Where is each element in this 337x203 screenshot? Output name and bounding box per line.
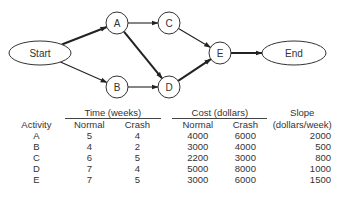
- time-normal-cell: 5: [65, 130, 114, 141]
- time-normal-cell: 7: [65, 163, 114, 174]
- slope-cell: 1000: [267, 163, 337, 174]
- network-nodes: StartABCDEEnd: [9, 12, 326, 98]
- activity-cell: A: [8, 130, 65, 141]
- cost-group-header: Cost (dollars): [172, 107, 267, 119]
- cost-crash-header: Crash: [223, 119, 267, 131]
- cost-crash-cell: 6000: [223, 174, 267, 185]
- time-crash-cell: 2: [114, 141, 161, 152]
- edge-start-to-A: [62, 27, 107, 44]
- edge-C-to-E: [178, 29, 210, 48]
- cost-crash-cell: 8000: [223, 163, 267, 174]
- slope-cell: 2000: [267, 130, 337, 141]
- node-E: E: [209, 42, 231, 64]
- node-label: C: [165, 18, 172, 29]
- cost-crash-cell: 6000: [223, 130, 267, 141]
- network-edges: [60, 23, 262, 87]
- node-A: A: [106, 12, 128, 34]
- activity-header: Activity: [8, 119, 65, 131]
- time-crash-cell: 4: [114, 130, 161, 141]
- project-network-diagram: StartABCDEEnd: [0, 0, 337, 105]
- time-crash-cell: 5: [114, 174, 161, 185]
- slope-cell: 800: [267, 152, 337, 163]
- cost-normal-cell: 3000: [172, 174, 223, 185]
- node-C: C: [158, 12, 180, 34]
- node-label: E: [217, 48, 224, 59]
- time-group-header: Time (weeks): [65, 107, 161, 119]
- activity-cell: C: [8, 152, 65, 163]
- cost-normal-cell: 3000: [172, 141, 223, 152]
- cost-crash-cell: 3000: [223, 152, 267, 163]
- slope-cell: 500: [267, 141, 337, 152]
- node-label: End: [285, 48, 303, 59]
- activity-table: Time (weeks) Cost (dollars) Slope Activi…: [8, 107, 337, 185]
- time-crash-cell: 4: [114, 163, 161, 174]
- time-crash-cell: 5: [114, 152, 161, 163]
- slope-cell: 1500: [267, 174, 337, 185]
- node-start: Start: [9, 41, 71, 65]
- slope-header: Slope: [267, 107, 337, 119]
- cost-normal-cell: 5000: [172, 163, 223, 174]
- node-label: B: [114, 82, 121, 93]
- node-label: Start: [29, 48, 50, 59]
- time-normal-cell: 6: [65, 152, 114, 163]
- cost-normal-header: Normal: [172, 119, 223, 131]
- activity-cell: D: [8, 163, 65, 174]
- node-label: A: [114, 18, 121, 29]
- edge-D-to-E: [178, 59, 211, 81]
- table-row: E75300060001500: [8, 174, 337, 185]
- time-crash-header: Crash: [114, 119, 161, 131]
- time-normal-cell: 4: [65, 141, 114, 152]
- time-normal-header: Normal: [65, 119, 114, 131]
- cost-normal-cell: 2200: [172, 152, 223, 163]
- cost-crash-cell: 4000: [223, 141, 267, 152]
- node-B: B: [106, 76, 128, 98]
- time-normal-cell: 7: [65, 174, 114, 185]
- node-label: D: [165, 82, 172, 93]
- node-D: D: [158, 76, 180, 98]
- slope-unit-header: (dollars/week): [267, 119, 337, 131]
- table-row: B4230004000500: [8, 141, 337, 152]
- table-row: D74500080001000: [8, 163, 337, 174]
- node-end: End: [262, 41, 326, 65]
- table-row: A54400060002000: [8, 130, 337, 141]
- cost-normal-cell: 4000: [172, 130, 223, 141]
- activity-cell: B: [8, 141, 65, 152]
- table-row: C6522003000800: [8, 152, 337, 163]
- activity-cell: E: [8, 174, 65, 185]
- edge-start-to-B: [60, 62, 107, 83]
- edge-A-to-D: [124, 32, 162, 79]
